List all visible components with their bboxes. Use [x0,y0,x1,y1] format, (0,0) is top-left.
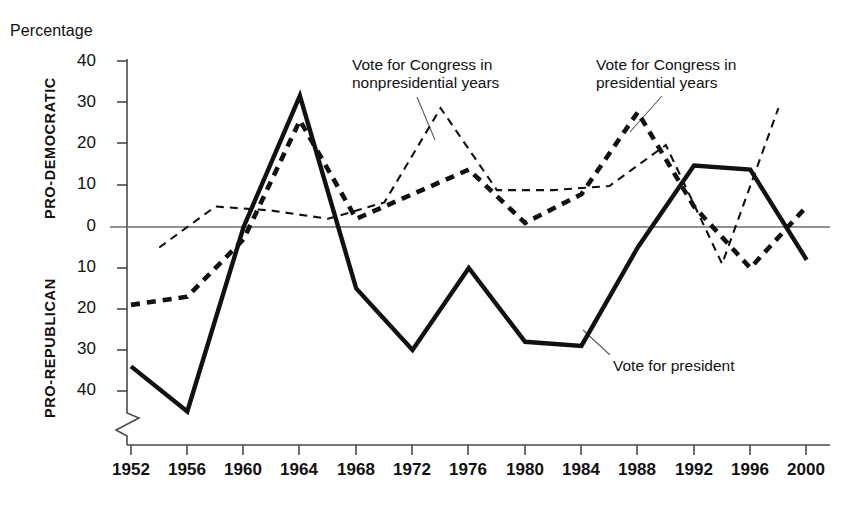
y-axis-ticks [117,61,127,391]
axis-break-symbol [116,404,139,445]
series-line-congress-nonpresidential [159,108,778,264]
plot-area [0,0,861,511]
chart-figure: Percentage PRO-DEMOCRATIC PRO-REPUBLICAN… [0,0,861,511]
x-axis-ticks [131,445,806,455]
